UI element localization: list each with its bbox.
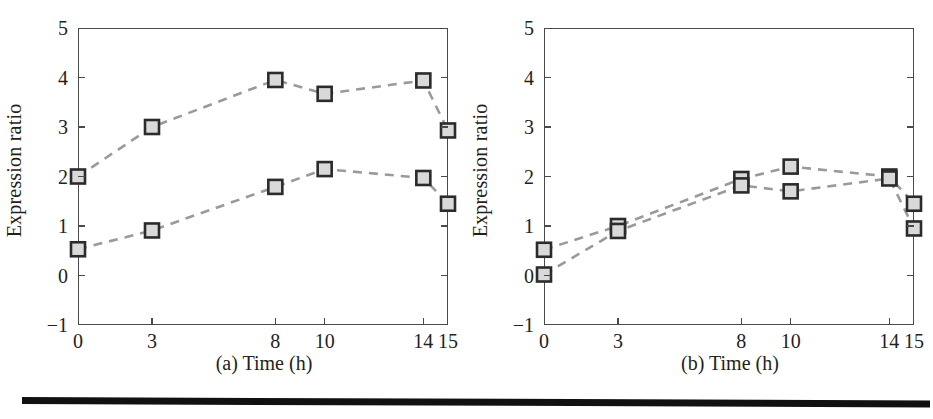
y-tick-label-a: 2 xyxy=(40,167,68,187)
series-line-b-1 xyxy=(544,178,914,274)
series-line-a-0 xyxy=(78,80,448,177)
data-point-marker xyxy=(441,197,455,211)
y-tick-label-a: 5 xyxy=(40,18,68,38)
data-point-marker xyxy=(145,120,159,134)
x-tick-label-b: 15 xyxy=(904,331,924,351)
y-tick-mark-a xyxy=(78,77,85,79)
y-tick-mark-right-a xyxy=(441,126,448,128)
data-point-marker xyxy=(611,224,625,238)
series-line-b-0 xyxy=(544,167,914,250)
x-tick-label-a: 10 xyxy=(315,331,335,351)
x-tick-label-a: 15 xyxy=(438,331,458,351)
y-tick-label-b: 1 xyxy=(506,216,534,236)
x-axis-label-b: (b) Time (h) xyxy=(544,352,916,375)
y-tick-label-a: 3 xyxy=(40,117,68,137)
data-point-marker xyxy=(882,171,896,185)
data-point-marker xyxy=(416,171,430,185)
data-point-marker xyxy=(416,73,430,87)
x-tick-label-b: 0 xyxy=(539,331,549,351)
y-tick-label-a: −1 xyxy=(40,315,68,335)
y-tick-mark-right-a xyxy=(441,225,448,227)
chart-panel-a: Expression ratio −1012345 038101415 (a) … xyxy=(0,0,466,392)
x-tick-label-a: 3 xyxy=(147,331,157,351)
data-point-marker xyxy=(907,197,921,211)
y-tick-mark-right-a xyxy=(441,77,448,79)
y-tick-label-b: 2 xyxy=(506,167,534,187)
y-tick-mark-right-b xyxy=(907,126,914,128)
page-rule-divider xyxy=(22,397,930,407)
x-tick-mark-a xyxy=(423,318,425,325)
data-point-marker xyxy=(71,242,85,256)
x-tick-label-a: 0 xyxy=(73,331,83,351)
x-tick-mark-a xyxy=(275,318,277,325)
data-point-marker xyxy=(145,223,159,237)
data-point-marker xyxy=(784,160,798,174)
y-tick-label-a: 4 xyxy=(40,68,68,88)
data-point-marker xyxy=(537,243,551,257)
x-tick-label-b: 3 xyxy=(613,331,623,351)
x-tick-mark-b xyxy=(790,318,792,325)
y-tick-label-a: 0 xyxy=(40,266,68,286)
data-point-marker xyxy=(268,73,282,87)
figure-two-panel-expression-ratio: Expression ratio −1012345 038101415 (a) … xyxy=(0,0,933,419)
plot-area-b xyxy=(544,28,914,325)
data-point-marker xyxy=(784,184,798,198)
x-axis-label-a: (a) Time (h) xyxy=(78,352,450,375)
y-tick-mark-a xyxy=(78,126,85,128)
x-tick-label-b: 14 xyxy=(879,331,899,351)
x-tick-label-a: 8 xyxy=(270,331,280,351)
y-tick-mark-a xyxy=(78,176,85,178)
x-tick-label-a: 14 xyxy=(413,331,433,351)
y-tick-mark-right-a xyxy=(441,176,448,178)
y-tick-label-a: 1 xyxy=(40,216,68,236)
y-tick-mark-right-b xyxy=(907,275,914,277)
y-tick-mark-right-a xyxy=(441,275,448,277)
y-tick-mark-a xyxy=(78,275,85,277)
data-point-marker xyxy=(318,87,332,101)
x-tick-mark-a xyxy=(324,318,326,325)
y-tick-label-b: −1 xyxy=(506,315,534,335)
chart-panel-b: Expression ratio −1012345 038101415 (b) … xyxy=(466,0,932,392)
y-tick-label-b: 5 xyxy=(506,18,534,38)
series-line-a-1 xyxy=(78,169,448,249)
x-tick-mark-b xyxy=(741,318,743,325)
y-tick-mark-b xyxy=(544,77,551,79)
plot-area-a xyxy=(78,28,448,325)
y-tick-mark-right-b xyxy=(907,176,914,178)
y-tick-mark-a xyxy=(78,225,85,227)
y-tick-mark-b xyxy=(544,176,551,178)
x-tick-label-b: 8 xyxy=(736,331,746,351)
y-tick-mark-right-b xyxy=(907,77,914,79)
y-tick-label-b: 0 xyxy=(506,266,534,286)
x-tick-mark-a xyxy=(151,318,153,325)
y-tick-label-b: 3 xyxy=(506,117,534,137)
y-axis-label-b: Expression ratio xyxy=(468,50,494,290)
data-point-marker xyxy=(268,180,282,194)
x-tick-mark-b xyxy=(617,318,619,325)
y-tick-label-b: 4 xyxy=(506,68,534,88)
data-point-marker xyxy=(318,162,332,176)
x-tick-mark-b xyxy=(889,318,891,325)
y-tick-mark-b xyxy=(544,126,551,128)
y-axis-label-a: Expression ratio xyxy=(2,50,28,290)
y-tick-mark-right-b xyxy=(907,225,914,227)
y-tick-mark-b xyxy=(544,275,551,277)
y-tick-mark-b xyxy=(544,225,551,227)
x-tick-label-b: 10 xyxy=(781,331,801,351)
data-point-marker xyxy=(734,178,748,192)
data-point-marker xyxy=(907,221,921,235)
